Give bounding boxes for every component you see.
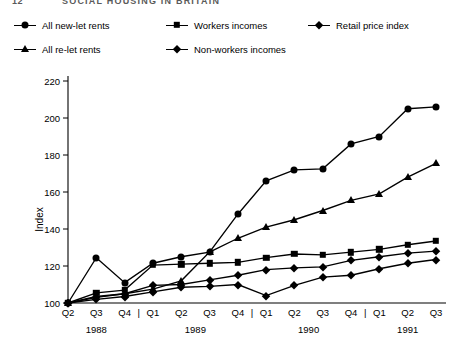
legend-label: Non-workers incomes xyxy=(194,44,286,55)
data-point xyxy=(178,261,184,267)
data-point xyxy=(121,279,128,286)
data-point xyxy=(348,249,354,255)
year-separator: | xyxy=(364,307,366,318)
y-tick-label: 220 xyxy=(30,76,60,87)
data-point xyxy=(432,159,440,166)
data-point xyxy=(262,292,270,300)
data-point xyxy=(348,140,355,147)
data-point xyxy=(433,103,440,110)
legend-glyph xyxy=(21,45,29,52)
data-point xyxy=(376,133,383,140)
year-label: 1989 xyxy=(185,324,206,335)
circle-marker-icon xyxy=(14,19,36,31)
data-point xyxy=(150,262,156,268)
legend-glyph xyxy=(173,45,181,53)
data-point xyxy=(319,206,327,213)
data-point xyxy=(291,251,297,257)
x-tick-label: Q4 xyxy=(232,307,245,318)
year-label: 1991 xyxy=(397,324,418,335)
data-point xyxy=(263,254,269,260)
data-point xyxy=(235,259,241,265)
legend-item: All new-let rents xyxy=(14,18,110,32)
data-point xyxy=(206,282,214,290)
x-tick-label: Q3 xyxy=(316,307,329,318)
data-point xyxy=(433,238,439,244)
y-tick-label: 140 xyxy=(30,224,60,235)
x-tick-label: Q4 xyxy=(345,307,358,318)
legend-item: Non-workers incomes xyxy=(166,42,286,56)
data-point xyxy=(432,247,440,255)
data-point xyxy=(404,242,410,248)
data-point xyxy=(376,246,382,252)
x-tick-label: Q2 xyxy=(175,307,188,318)
year-label: 1988 xyxy=(86,324,107,335)
data-point xyxy=(320,252,326,258)
x-tick-label: Q3 xyxy=(90,307,103,318)
data-point xyxy=(178,253,185,260)
data-point xyxy=(93,254,100,261)
data-point xyxy=(404,259,412,267)
diamond-marker-icon xyxy=(308,19,330,31)
line-chart: Index 100120140160180200220Q2Q3Q4Q1Q2Q3Q… xyxy=(0,64,451,360)
data-point xyxy=(319,165,326,172)
y-tick-label: 200 xyxy=(30,113,60,124)
x-tick-label: Q4 xyxy=(118,307,131,318)
y-tick-label: 100 xyxy=(30,298,60,309)
data-point xyxy=(375,265,383,273)
x-tick-label: Q1 xyxy=(373,307,386,318)
legend-item: Retail price index xyxy=(308,18,409,32)
data-point xyxy=(319,263,327,271)
data-point xyxy=(404,249,412,257)
data-point xyxy=(262,266,270,274)
data-point xyxy=(375,253,383,261)
square-marker-icon xyxy=(166,19,188,31)
data-point xyxy=(375,190,383,197)
data-point xyxy=(263,177,270,184)
data-point xyxy=(234,234,242,241)
data-point xyxy=(347,256,355,264)
x-tick-label: Q2 xyxy=(62,307,75,318)
data-point xyxy=(234,271,242,279)
chart-legend: All new-let rentsWorkers incomesRetail p… xyxy=(0,16,451,64)
legend-glyph xyxy=(315,21,323,29)
data-point xyxy=(347,196,355,203)
running-head-title: SOCIAL HOUSING IN BRITAIN xyxy=(62,0,220,6)
x-tick-label: Q1 xyxy=(147,307,160,318)
data-point xyxy=(291,166,298,173)
data-point xyxy=(234,211,241,218)
x-tick-label: Q3 xyxy=(430,307,443,318)
legend-item: Workers incomes xyxy=(166,18,267,32)
legend-label: All new-let rents xyxy=(42,20,110,31)
data-point xyxy=(206,260,212,266)
legend-glyph xyxy=(174,22,180,28)
data-point xyxy=(290,264,298,272)
x-tick-label: Q1 xyxy=(260,307,273,318)
data-point xyxy=(347,271,355,279)
data-point xyxy=(432,256,440,264)
year-separator: | xyxy=(251,307,253,318)
legend-item: All re-let rents xyxy=(14,42,101,56)
diamond-marker-icon xyxy=(166,43,188,55)
legend-label: All re-let rents xyxy=(42,44,101,55)
year-separator: | xyxy=(138,307,140,318)
data-point xyxy=(262,223,270,230)
legend-label: Workers incomes xyxy=(194,20,267,31)
legend-label: Retail price index xyxy=(336,20,409,31)
year-label: 1990 xyxy=(298,324,319,335)
x-tick-label: Q3 xyxy=(203,307,216,318)
x-tick-label: Q2 xyxy=(288,307,301,318)
y-tick-label: 180 xyxy=(30,150,60,161)
data-point xyxy=(290,281,298,289)
data-point xyxy=(319,273,327,281)
x-tick-label: Q2 xyxy=(401,307,414,318)
data-point xyxy=(290,216,298,223)
legend-glyph xyxy=(22,22,29,29)
triangle-marker-icon xyxy=(14,43,36,55)
data-point xyxy=(206,248,214,255)
y-tick-label: 120 xyxy=(30,261,60,272)
data-point xyxy=(234,281,242,289)
page-header: 12 SOCIAL HOUSING IN BRITAIN xyxy=(0,0,451,12)
page-number: 12 xyxy=(12,0,23,6)
data-point xyxy=(404,105,411,112)
data-point xyxy=(404,173,412,180)
